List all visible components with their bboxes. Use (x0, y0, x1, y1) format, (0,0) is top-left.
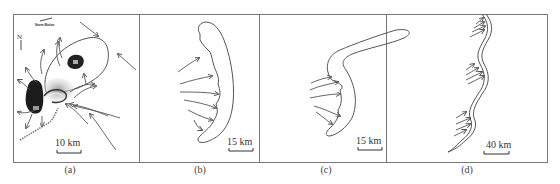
storm-motion-arrow-icon (40, 18, 52, 21)
flow-arrow (456, 112, 466, 118)
cell-label-b2 (33, 106, 39, 110)
panel-caption: (b) (194, 164, 206, 176)
north-arrow: N (17, 33, 22, 50)
panel-d: 40 km (d) (448, 14, 512, 176)
flow-arrow (26, 114, 32, 128)
flow-arrow (188, 110, 212, 120)
flow-arrow (456, 124, 470, 130)
flow-arrow (80, 22, 98, 36)
flow-arrow (314, 106, 340, 116)
flow-arrow (26, 68, 36, 82)
bow-echo-outline (326, 30, 409, 136)
panel-a: Storm Motion N (17, 18, 136, 176)
squall-line-outline (448, 14, 488, 152)
figure-frame (14, 15, 548, 163)
scale-label: 10 km (55, 137, 81, 148)
scale-bar (57, 150, 81, 153)
flow-arrow (84, 74, 86, 84)
flow-arrow (472, 26, 485, 32)
figure: Storm Motion N (0, 0, 560, 184)
flow-arrow (178, 58, 199, 72)
flow-arrow (316, 112, 332, 124)
panel-b: 15 km (b) (178, 22, 253, 176)
panel-caption: (c) (320, 164, 331, 176)
flow-arrow (41, 50, 44, 74)
flow-arrow (90, 114, 116, 150)
flow-arrow (466, 64, 474, 70)
cell-label-b1 (73, 60, 78, 64)
flow-arrow (454, 130, 466, 136)
flow-arrow (70, 104, 108, 116)
scale-bar (229, 148, 253, 151)
north-label: N (17, 33, 22, 41)
bow-echo-outline (198, 22, 234, 143)
panel-caption: (d) (461, 164, 473, 176)
storm-motion-legend: Storm Motion (35, 18, 54, 27)
scale-label: 15 km (356, 135, 382, 146)
flow-arrow (468, 76, 484, 84)
flow-arrow (310, 82, 338, 90)
flow-arrow (118, 54, 136, 70)
flow-arrow (184, 100, 216, 108)
scale-bar (484, 151, 509, 154)
scale-label: 15 km (227, 136, 253, 147)
flow-arrow (180, 76, 212, 84)
flow-arrow (470, 30, 484, 37)
scale-label: 40 km (486, 139, 512, 150)
storm-motion-label: Storm Motion (35, 23, 54, 27)
panel-caption: (a) (64, 164, 75, 176)
flow-arrow (18, 80, 30, 90)
flow-arrow (59, 38, 62, 58)
scale-bar (358, 147, 382, 150)
flow-arrow (180, 92, 218, 94)
flow-arrow (194, 120, 202, 130)
flow-arrow (456, 118, 470, 124)
panel-c: 15 km (c) (310, 30, 409, 176)
flow-arrow (311, 77, 331, 83)
flow-arrow (310, 94, 340, 98)
